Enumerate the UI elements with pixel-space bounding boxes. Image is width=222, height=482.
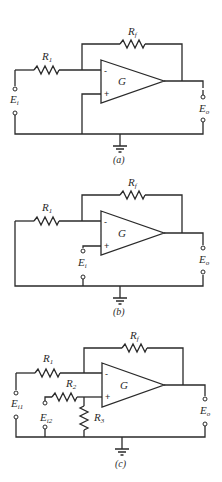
plus-sign: +	[105, 392, 110, 402]
caption-c: (c)	[115, 458, 127, 470]
terminal-eo	[201, 118, 205, 122]
label-rf: Rf	[129, 329, 140, 343]
label-r2: R2	[65, 377, 77, 391]
label-rf: Rf	[127, 25, 138, 39]
wire	[82, 94, 101, 134]
opamp-circuits-figure: R1 Rf G - + Ei Eo (a) R1 Rf G - +	[0, 0, 222, 482]
resistor-rf	[120, 40, 145, 48]
ground-icon	[115, 437, 129, 455]
terminal-eo	[203, 397, 207, 401]
label-eo: Eo	[198, 102, 210, 116]
terminal-ei	[81, 275, 85, 279]
label-ei: Ei	[9, 93, 19, 107]
opamp-triangle	[102, 363, 164, 407]
resistor-r3	[80, 406, 88, 430]
circuit-b: R1 Rf G - + Ei Eo (b)	[15, 176, 210, 318]
label-ei2: Ei2	[39, 411, 53, 425]
circuit-c: R1 Rf R2 R3 G - + Ei1 Ei2 Eo (c)	[10, 329, 211, 470]
terminal-ei2	[43, 401, 47, 405]
circuit-a: R1 Rf G - + Ei Eo (a)	[9, 25, 210, 166]
resistor-rf	[120, 191, 145, 199]
terminal-eo	[201, 270, 205, 274]
label-eo: Eo	[198, 253, 210, 267]
minus-sign: -	[105, 369, 108, 379]
terminal-ei	[81, 249, 85, 253]
resistor-rf	[122, 344, 147, 352]
resistor-r1	[34, 66, 59, 74]
opamp-label: G	[118, 75, 126, 87]
label-ei: Ei	[77, 256, 87, 270]
opamp-triangle	[101, 211, 164, 255]
ground-icon	[113, 134, 127, 152]
terminal-eo	[203, 422, 207, 426]
ground-bus	[15, 221, 203, 286]
wire	[145, 195, 182, 233]
terminal-ei1	[14, 415, 18, 419]
label-r1: R1	[41, 50, 52, 64]
caption-a: (a)	[113, 154, 125, 166]
label-r1: R1	[42, 352, 53, 366]
ground-icon	[113, 286, 127, 304]
terminal-eo	[201, 246, 205, 250]
plus-sign: +	[104, 89, 109, 99]
terminal-eo	[201, 95, 205, 99]
minus-sign: -	[104, 66, 107, 76]
label-rf: Rf	[127, 176, 138, 190]
label-r1: R1	[41, 201, 52, 215]
opamp-label: G	[118, 227, 126, 239]
terminal-ei	[13, 111, 17, 115]
wire	[45, 397, 52, 401]
terminal-ei1	[14, 391, 18, 395]
label-ei1: Ei1	[10, 397, 23, 411]
resistor-r1	[34, 217, 59, 225]
label-eo: Eo	[199, 404, 211, 418]
resistor-r1	[35, 369, 60, 377]
opamp-label: G	[120, 379, 128, 391]
wire	[164, 385, 205, 396]
opamp-triangle	[101, 60, 164, 103]
wire	[147, 348, 183, 385]
resistor-r2	[52, 393, 77, 401]
wire	[164, 233, 203, 245]
label-r3: R3	[93, 411, 105, 425]
plus-sign: +	[104, 241, 109, 251]
wire	[84, 348, 122, 373]
ground-bus	[15, 115, 203, 134]
wire	[164, 81, 203, 88]
minus-sign: -	[104, 217, 107, 227]
wire	[83, 246, 101, 248]
terminal-ei	[13, 87, 17, 91]
wire	[145, 44, 182, 81]
caption-b: (b)	[113, 306, 125, 318]
terminal-ei2	[43, 425, 47, 429]
